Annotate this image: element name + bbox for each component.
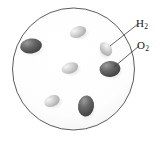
label-h2-subscript: 2 [144,22,148,31]
label-o2: O2 [137,40,149,51]
label-h2: H2 [136,18,148,29]
label-o2-formula: O [137,39,145,51]
label-o2-subscript: 2 [145,44,149,53]
label-h2-formula: H [136,17,144,29]
molecular-diagram-figure: H2 O2 [0,0,162,142]
